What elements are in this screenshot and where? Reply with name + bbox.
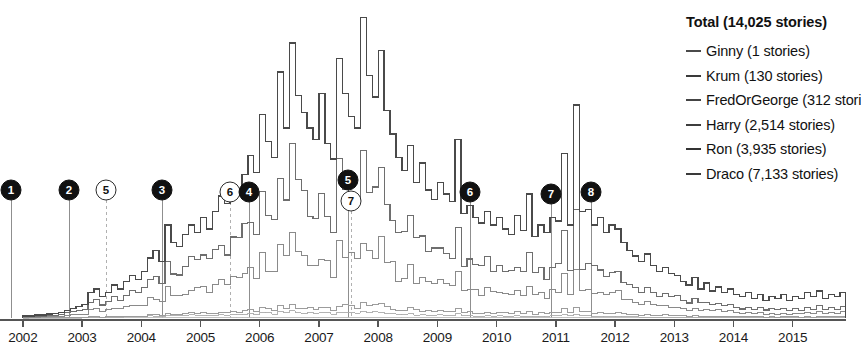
legend-item[interactable]: Ron (3,935 stories) [686,137,846,162]
x-axis [0,320,846,328]
legend-item[interactable]: Ginny (1 stories) [686,39,846,64]
year-label-2002: 2002 [8,330,37,345]
year-label-2003: 2003 [67,330,96,345]
legend-swatch-icon [686,99,701,101]
year-label-2011: 2011 [542,330,570,345]
annotation-marker-8[interactable]: 8 [581,182,602,203]
year-label-2014: 2014 [719,330,748,345]
legend-item-label: Harry (2,514 stories) [706,117,835,133]
annotation-marker-1[interactable]: 1 [1,180,22,201]
legend-item[interactable]: FredOrGeorge (312 stori [686,88,846,113]
year-label-2013: 2013 [660,330,689,345]
legend-swatch-icon [686,75,701,77]
legend-swatch-icon [686,50,701,52]
annotation-marker-5[interactable]: 5 [96,180,117,201]
annotation-marker-6[interactable]: 6 [220,182,241,203]
legend-item-label: Ron (3,935 stories) [706,141,826,157]
year-label-2007: 2007 [304,330,333,345]
annotation-marker-5[interactable]: 5 [338,170,359,191]
legend-title: Total (14,025 stories) [686,14,846,30]
year-label-2012: 2012 [600,330,629,345]
year-label-2005: 2005 [186,330,215,345]
annotation-marker-4[interactable]: 4 [239,182,260,203]
year-label-2006: 2006 [245,330,274,345]
annotation-marker-6[interactable]: 6 [460,182,481,203]
legend-rows: Ginny (1 stories)Krum (130 stories)FredO… [686,39,846,186]
legend-item-label: Draco (7,133 stories) [706,166,838,182]
annotation-marker-2[interactable]: 2 [59,180,80,201]
year-label-2015: 2015 [778,330,807,345]
annotation-marker-3[interactable]: 3 [152,180,173,201]
year-label-2010: 2010 [482,330,511,345]
legend-swatch-icon [686,148,701,150]
annotation-marker-7[interactable]: 7 [541,184,562,205]
legend-item[interactable]: Krum (130 stories) [686,64,846,89]
legend-item-label: Ginny (1 stories) [706,43,810,59]
year-label-2004: 2004 [127,330,156,345]
year-label-2008: 2008 [364,330,393,345]
legend-item-label: Krum (130 stories) [706,68,823,84]
legend-swatch-icon [686,124,701,126]
year-label-2009: 2009 [423,330,452,345]
legend-swatch-icon [686,173,701,175]
legend-item[interactable]: Draco (7,133 stories) [686,162,846,187]
legend: Total (14,025 stories) Ginny (1 stories)… [686,14,846,186]
legend-item-label: FredOrGeorge (312 stori [706,92,861,108]
legend-item[interactable]: Harry (2,514 stories) [686,113,846,138]
annotation-marker-7[interactable]: 7 [341,191,362,212]
